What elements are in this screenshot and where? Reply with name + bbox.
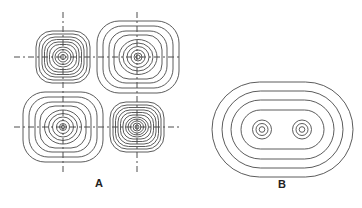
stadium-ring-3 xyxy=(231,100,334,159)
stadium-ring-2 xyxy=(222,91,343,168)
diagram-canvas xyxy=(0,0,362,208)
panel-b-contours xyxy=(212,82,353,177)
contour-top-right xyxy=(97,21,179,93)
panel-label-a: A xyxy=(95,177,103,189)
inner-circle-group-right xyxy=(293,120,312,139)
inner-circle-group-left xyxy=(253,120,272,139)
panel-label-b: B xyxy=(278,178,286,190)
stadium-ring-1 xyxy=(212,82,353,177)
